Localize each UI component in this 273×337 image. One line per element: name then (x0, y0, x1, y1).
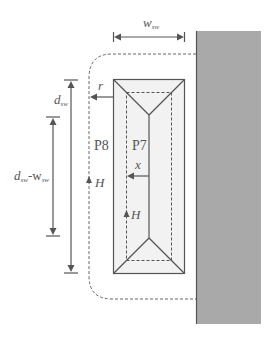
p7-label: P7 (132, 138, 147, 153)
d-minus-w-label: dsw-wsw (14, 168, 49, 184)
wall (196, 31, 261, 324)
h-outer-label: H (94, 175, 105, 190)
r-label: r (98, 78, 104, 93)
h-outer-arrow (86, 176, 92, 183)
h-inner-label: H (130, 207, 141, 222)
d-sw-label: dsw (54, 92, 68, 108)
w-sw-label: wsw (143, 15, 159, 31)
diagram-canvas: wsw dsw dsw-wsw r P8 P7 x H H (0, 0, 273, 337)
r-arrow (90, 94, 113, 101)
d-sw-dimension (64, 80, 78, 273)
x-label: x (134, 157, 141, 172)
w-sw-dimension (114, 32, 185, 42)
p8-label: P8 (94, 138, 109, 153)
